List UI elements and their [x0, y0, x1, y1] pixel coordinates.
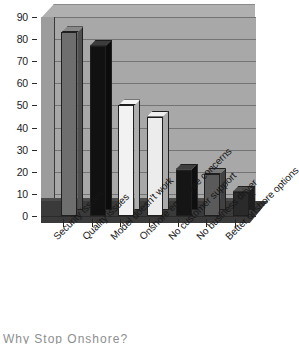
cutoff-caption: Why Stop Onshore? — [3, 332, 143, 344]
